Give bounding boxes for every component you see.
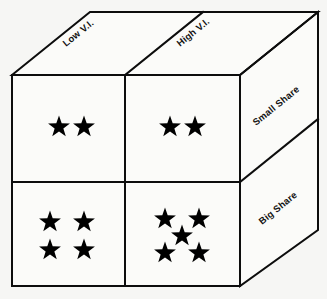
diagram-canvas: Low V.I. High V.I. Small Share Big Share [0, 0, 327, 299]
cube-diagram: Low V.I. High V.I. Small Share Big Share [0, 0, 327, 299]
